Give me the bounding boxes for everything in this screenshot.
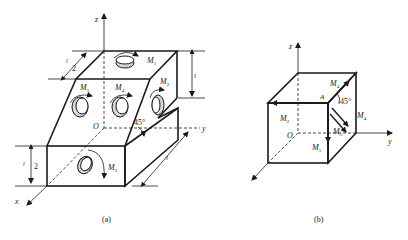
moment-label-m4: M4: [114, 83, 125, 93]
caption-a: (a): [102, 215, 111, 224]
vector-label-m4-side: M4: [356, 111, 367, 121]
origin-label-b: O: [287, 131, 293, 140]
hidden-edge: [268, 133, 298, 163]
point-label-a: A: [319, 93, 325, 101]
hole-m3: [75, 150, 104, 178]
y-axis-label-b: y: [387, 137, 392, 146]
block-edge: [125, 79, 150, 146]
hidden-x-line: [47, 128, 104, 186]
z-axis-label-a: z: [94, 15, 99, 24]
block-edge: [47, 79, 76, 146]
moment-label-m1: M1: [146, 56, 157, 66]
moment-label-m5: M5: [79, 83, 90, 93]
x-axis-label-a: x: [14, 197, 19, 206]
vector-label-m1: M1: [311, 143, 322, 153]
hole-m2: [150, 90, 164, 115]
x-axis-b: [252, 163, 268, 180]
hole-m1: [114, 52, 138, 68]
angle-label-a: 45°: [134, 118, 145, 127]
dim-left-den: 2: [34, 162, 38, 171]
x-axis-a: [27, 186, 47, 205]
hole-m5: [70, 95, 92, 117]
vector-label-m4-top: M4: [329, 79, 340, 89]
dim-right-label: l: [194, 72, 196, 80]
moment-label-m2: M2: [159, 77, 170, 87]
moment-label-m3: M3: [107, 163, 118, 173]
dim-top-den: 2: [72, 64, 76, 73]
y-axis-label-a: y: [201, 124, 206, 133]
vector-m4-side: [332, 108, 348, 126]
angle-label-b: 45°: [340, 97, 351, 106]
figure-b: z y O A 45° M4 M2 M4 M5 M1 (b): [252, 42, 392, 224]
vector-label-m2: M2: [279, 114, 290, 124]
vector-label-m5: M5: [332, 127, 343, 137]
hole-m4: [110, 95, 132, 117]
dim-top-label: l: [66, 58, 68, 64]
dim-left-label: l: [23, 161, 25, 167]
dim-bottom-label: l: [166, 154, 168, 162]
mechanics-diagram: z x y O: [0, 0, 408, 240]
caption-b: (b): [314, 215, 324, 224]
z-axis-label-b: z: [288, 42, 293, 51]
origin-label-a: O: [93, 122, 99, 131]
figure-a: z x y O: [14, 14, 206, 224]
